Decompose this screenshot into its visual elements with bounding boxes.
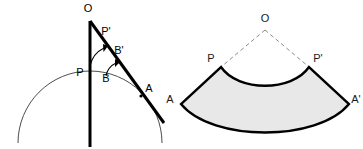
label-left-B: B xyxy=(102,72,109,84)
label-left-P-prime: P' xyxy=(101,25,110,37)
label-left-B-prime: B' xyxy=(114,44,123,56)
label-right-A: A xyxy=(166,93,174,105)
geometry-figure: O P' B' P B A O P P' A A' xyxy=(0,0,363,149)
label-right-O: O xyxy=(261,12,270,24)
label-left-O: O xyxy=(84,2,93,14)
label-right-P: P xyxy=(207,52,214,64)
label-left-P: P xyxy=(76,66,83,78)
point-A-marker xyxy=(139,94,142,97)
label-left-A: A xyxy=(145,82,153,94)
label-right-P-prime: P' xyxy=(313,52,322,64)
label-right-A-prime: A' xyxy=(351,93,360,105)
figure-root: O P' B' P B A O P P' A A' xyxy=(0,0,363,149)
